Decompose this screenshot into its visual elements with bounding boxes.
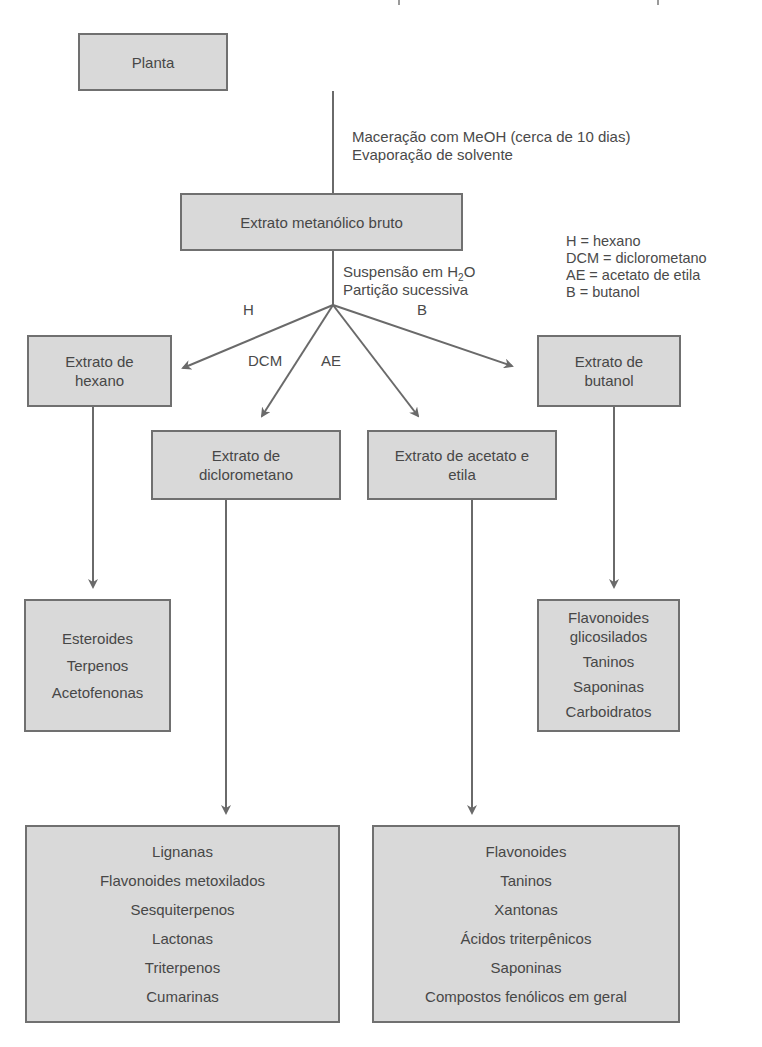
compound-item: Carboidratos [566, 702, 652, 721]
compound-item: Acetofenonas [52, 683, 144, 702]
node-compostos-acetato-etila: Flavonoides Taninos Xantonas Ácidos trit… [372, 825, 680, 1023]
node-extrato-bruto-label: Extrato metanólico bruto [240, 213, 403, 232]
node-dcm-line1: Extrato de [212, 446, 280, 465]
node-dcm-line2: diclorometano [199, 465, 293, 484]
node-compostos-butanol: Flavonoides glicosilados Taninos Saponin… [537, 599, 680, 732]
compound-item: Lactonas [152, 929, 213, 948]
node-butanol-line2: butanol [584, 371, 633, 390]
node-hexano-line1: Extrato de [65, 352, 133, 371]
node-ae-line2: etila [448, 465, 476, 484]
arrow-ae [333, 305, 418, 416]
edge-label-ae: AE [321, 352, 341, 369]
compound-item: Lignanas [152, 842, 213, 861]
node-extrato-metanolico-bruto: Extrato metanólico bruto [180, 193, 463, 251]
legend-item-h: H = hexano [566, 233, 707, 250]
step-note-suspensao: Suspensão em H2O [343, 263, 475, 281]
compound-item: Ácidos triterpênicos [461, 929, 592, 948]
node-extrato-hexano: Extrato de hexano [27, 335, 172, 407]
node-compostos-hexano: Esteroides Terpenos Acetofenonas [24, 599, 171, 732]
edge-label-h: H [243, 301, 254, 318]
node-hexano-line2: hexano [75, 371, 124, 390]
compound-item: Esteroides [62, 629, 133, 648]
compound-item: Compostos fenólicos em geral [425, 987, 627, 1006]
compound-item: glicosilados [570, 627, 648, 646]
compound-item: Flavonoides [486, 842, 567, 861]
compound-item: Xantonas [494, 900, 557, 919]
step-note-maceracao-line2: Evaporação de solvente [352, 146, 630, 164]
compound-item: Taninos [583, 652, 635, 671]
compound-item: Sesquiterpenos [130, 900, 234, 919]
compound-item: Cumarinas [146, 987, 219, 1006]
compound-item: Saponinas [491, 958, 562, 977]
node-compostos-diclorometano: Lignanas Flavonoides metoxilados Sesquit… [25, 825, 340, 1023]
node-extrato-acetato-etila: Extrato de acetato e etila [367, 430, 557, 500]
edge-label-b: B [417, 301, 427, 318]
edge-label-dcm: DCM [248, 352, 282, 369]
legend: H = hexano DCM = diclorometano AE = acet… [566, 233, 707, 301]
node-planta-label: Planta [132, 53, 175, 72]
legend-item-dcm: DCM = diclorometano [566, 250, 707, 267]
step-note-maceracao: Maceração com MeOH (cerca de 10 dias) Ev… [352, 128, 630, 164]
node-extrato-diclorometano: Extrato de diclorometano [151, 430, 341, 500]
legend-item-b: B = butanol [566, 284, 707, 301]
node-butanol-line1: Extrato de [575, 352, 643, 371]
suspensao-prefix: Suspensão em H [343, 263, 458, 280]
compound-item: Saponinas [573, 677, 644, 696]
compound-item: Triterpenos [145, 958, 220, 977]
node-extrato-butanol: Extrato de butanol [537, 335, 681, 407]
compound-item: Taninos [500, 871, 552, 890]
compound-item: Terpenos [67, 656, 129, 675]
step-note-maceracao-line1: Maceração com MeOH (cerca de 10 dias) [352, 128, 630, 146]
compound-item: Flavonoides metoxilados [100, 871, 265, 890]
node-ae-line1: Extrato de acetato e [395, 446, 529, 465]
node-planta: Planta [78, 33, 228, 91]
compound-item: Flavonoides [568, 608, 649, 627]
step-note-particao-sucessiva: Partição sucessiva [343, 281, 475, 299]
suspensao-suffix: O [464, 263, 476, 280]
legend-item-ae: AE = acetato de etila [566, 267, 707, 284]
step-note-particao: Suspensão em H2O Partição sucessiva [343, 263, 475, 299]
